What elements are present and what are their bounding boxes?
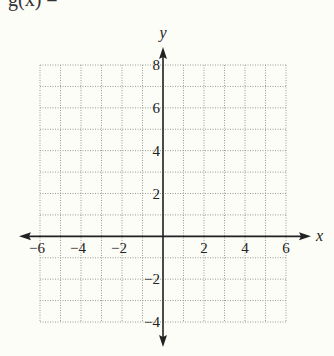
coordinate-plane: −6−4−22468642−2−4 x y	[0, 0, 334, 356]
x-axis-label: x	[315, 227, 323, 244]
x-tick-label: −6	[29, 240, 45, 256]
y-tick-label: 8	[153, 57, 161, 73]
y-tick-label: −4	[144, 314, 160, 330]
x-tick-label: 4	[241, 240, 249, 256]
y-tick-label: 4	[153, 143, 161, 159]
y-tick-label: 2	[153, 186, 161, 202]
x-tick-label: −4	[70, 240, 86, 256]
x-tick-label: −2	[111, 240, 127, 256]
x-tick-label: 2	[200, 240, 208, 256]
y-axis-label: y	[157, 24, 167, 42]
x-tick-label: 6	[282, 240, 290, 256]
axes	[19, 47, 311, 347]
y-tick-label: −2	[144, 271, 160, 287]
y-tick-label: 6	[153, 100, 161, 116]
